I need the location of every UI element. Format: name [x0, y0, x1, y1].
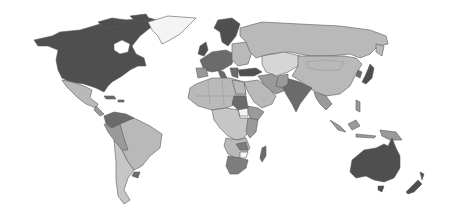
- world-map: [0, 0, 456, 224]
- world-map-svg: [0, 0, 456, 224]
- region-iberia[interactable]: [196, 68, 208, 78]
- region-philippines[interactable]: [356, 100, 360, 112]
